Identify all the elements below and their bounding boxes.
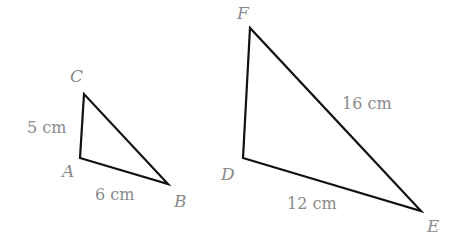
vertex-a-label: A [60, 161, 74, 181]
triangle-abc: C A B 5 cm 6 cm [27, 66, 187, 211]
vertex-f-label: F [236, 3, 250, 23]
similar-triangles-figure: C A B 5 cm 6 cm F D E 16 cm 12 cm [0, 0, 469, 239]
vertex-e-label: E [426, 216, 440, 236]
triangle-def: F D E 16 cm 12 cm [220, 3, 440, 236]
triangle-abc-outline [80, 94, 168, 184]
vertex-c-label: C [70, 66, 83, 86]
vertex-d-label: D [220, 164, 235, 184]
side-ab-length: 6 cm [95, 185, 134, 204]
side-ac-length: 5 cm [27, 118, 66, 137]
side-ef-length: 16 cm [342, 94, 392, 113]
side-de-length: 12 cm [287, 194, 337, 213]
vertex-b-label: B [173, 191, 187, 211]
diagram-canvas: C A B 5 cm 6 cm F D E 16 cm 12 cm [0, 0, 469, 239]
triangle-def-outline [243, 28, 421, 211]
